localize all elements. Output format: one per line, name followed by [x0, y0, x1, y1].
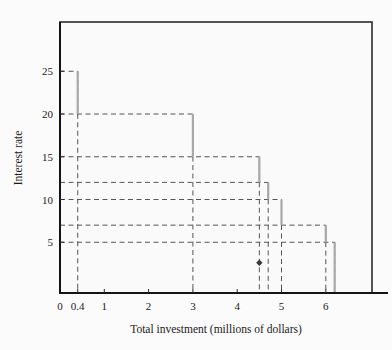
- interest-rate-step-chart: 00.4123456 510152025 Total investment (m…: [0, 0, 392, 350]
- x-tick-label-5: 5: [279, 300, 285, 312]
- x-tick-label-3: 3: [190, 300, 196, 312]
- x-tick-label-1: 1: [102, 300, 108, 312]
- x-tick-label-0: 0: [57, 300, 63, 312]
- x-tick-label-2: 2: [146, 300, 152, 312]
- y-tick-label-5: 5: [48, 236, 54, 248]
- chart-figure: 00.4123456 510152025 Total investment (m…: [0, 0, 392, 350]
- x-axis-title: Total investment (millions of dollars): [130, 323, 302, 336]
- y-tick-label-25: 25: [42, 65, 54, 77]
- y-axis-title: Interest rate: [12, 131, 24, 186]
- x-tick-label-0.4: 0.4: [71, 300, 85, 312]
- y-tick-label-15: 15: [42, 151, 54, 163]
- plot-area-background: [60, 22, 372, 293]
- y-tick-label-10: 10: [42, 194, 54, 206]
- x-tick-label-4: 4: [234, 300, 240, 312]
- y-tick-label-20: 20: [42, 108, 54, 120]
- x-tick-label-6: 6: [323, 300, 329, 312]
